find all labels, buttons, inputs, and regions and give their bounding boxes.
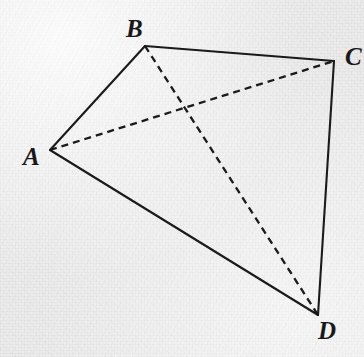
vertex-label-c: C [345, 44, 362, 69]
diagonal-ac [50, 61, 334, 150]
figure-canvas [0, 0, 364, 357]
vertex-label-d: D [318, 318, 336, 343]
geometry-figure: A B C D [0, 0, 364, 357]
vertex-label-b: B [126, 16, 143, 41]
edge-cd [318, 61, 334, 315]
solid-edges [50, 46, 334, 315]
vertex-label-a: A [23, 144, 40, 169]
edge-bc [145, 46, 334, 61]
dashed-diagonals [50, 46, 334, 315]
edge-da [50, 150, 318, 315]
diagonal-bd [145, 46, 318, 315]
